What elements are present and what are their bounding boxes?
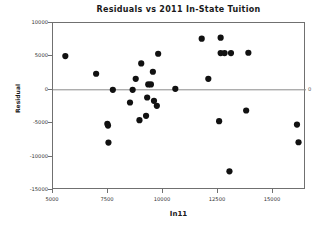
data-point [154,103,160,109]
x-tick-label: 7500 [87,196,127,202]
data-point [144,94,150,100]
data-point [62,53,68,59]
data-points [62,35,301,175]
data-point [130,87,136,93]
x-axis-title: In11 [52,210,305,218]
x-tick-label: 15000 [252,196,292,202]
data-point [216,118,222,124]
data-point [199,36,205,42]
data-point [136,117,142,123]
zero-line-right-label: 0 [308,86,311,92]
data-point [105,122,111,128]
data-point [143,113,149,119]
data-point [226,168,232,174]
data-point [105,139,111,145]
data-point [133,76,139,82]
x-tick-label: 5000 [32,196,72,202]
data-point [155,51,161,57]
data-point [93,71,99,77]
data-point [138,60,144,66]
data-point [172,86,178,92]
data-point [110,87,116,93]
data-point [222,50,228,56]
data-point [148,81,154,87]
plot-area [52,22,305,189]
data-point [127,99,133,105]
data-point [294,121,300,127]
data-point [150,69,156,75]
chart-figure: Residuals vs 2011 In-State Tuition Resid… [0,0,324,237]
data-point [245,50,251,56]
x-tick-label: 12500 [197,196,237,202]
data-point [228,50,234,56]
data-point [218,35,224,41]
scatter-plot-canvas [53,23,306,190]
x-tick-label: 10000 [142,196,182,202]
data-point [295,139,301,145]
data-point [205,76,211,82]
data-point [243,107,249,113]
